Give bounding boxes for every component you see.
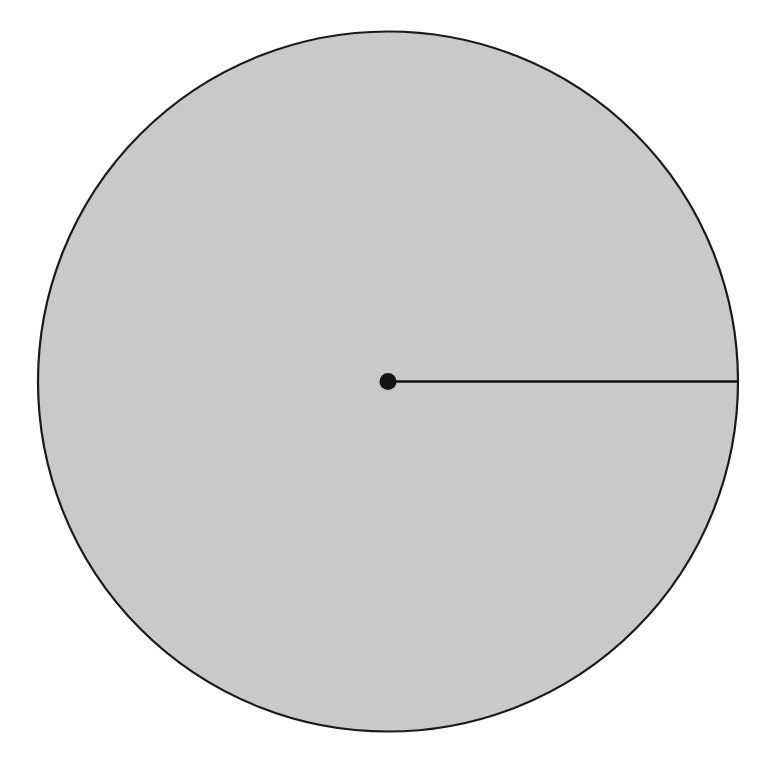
center-point-dot	[380, 373, 397, 390]
circle-radius-figure	[0, 0, 772, 769]
figure-canvas	[0, 0, 772, 769]
